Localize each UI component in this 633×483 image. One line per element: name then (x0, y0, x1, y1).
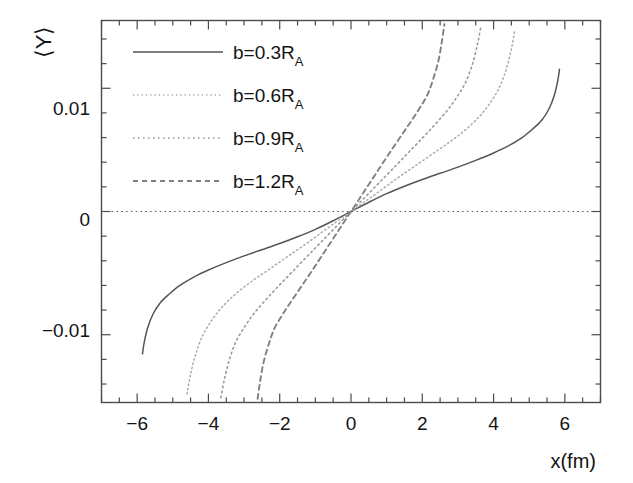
figure-container: −6−4−20246 0.01 0 −0.01 ⟨Y⟩ x(fm) b=0.3R… (0, 0, 633, 483)
y-axis-title: ⟨Y⟩ (31, 26, 56, 59)
legend-label-subscript-3: A (295, 183, 304, 198)
x-tick-label: −6 (126, 413, 148, 434)
y-tick-label-lower: −0.01 (42, 320, 90, 341)
x-tick-label: −2 (269, 413, 291, 434)
x-tick-label: 0 (346, 413, 357, 434)
x-axis-title: x(fm) (550, 450, 596, 472)
plot-svg: −6−4−20246 0.01 0 −0.01 ⟨Y⟩ x(fm) b=0.3R… (0, 0, 633, 483)
x-tick-label: 4 (488, 413, 499, 434)
y-tick-label-upper: 0.01 (53, 98, 90, 119)
x-tick-label: 6 (560, 413, 571, 434)
canvas-background (0, 0, 633, 483)
x-tick-label: −4 (198, 413, 220, 434)
legend-label-subscript-2: A (295, 140, 304, 155)
x-tick-label: 2 (417, 413, 428, 434)
y-tick-label-zero: 0 (79, 209, 90, 230)
legend-label-subscript-0: A (295, 54, 304, 69)
legend-label-subscript-1: A (295, 97, 304, 112)
